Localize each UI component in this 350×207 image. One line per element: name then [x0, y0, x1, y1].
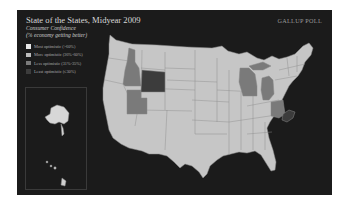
- state-hawaii-big: [61, 178, 66, 186]
- state-michigan: [261, 76, 274, 100]
- map-frame: State of the States, Midyear 2009 Consum…: [17, 10, 332, 195]
- alaska-panhandle: [61, 124, 64, 136]
- state-wyoming: [141, 70, 165, 92]
- state-alaska: [45, 105, 69, 124]
- state-hawaii-2: [50, 165, 52, 167]
- state-hawaii-3: [54, 167, 56, 169]
- state-hawaii-1: [46, 161, 48, 163]
- us-map: [17, 10, 332, 195]
